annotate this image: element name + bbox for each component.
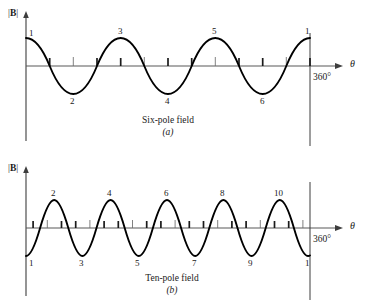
panel-b-pole-label-3: 3 [79,258,84,268]
panel-b-pole-label-6: 6 [164,188,169,198]
panel-b-x-axis-arrow [335,225,343,231]
panel-b-sublabel: (b) [112,285,232,295]
panel-a-x-end-label: 360° [313,72,331,82]
panel-a-y-axis-bar-right: | [16,8,18,18]
panel-b-pole-label-9: 9 [248,258,253,268]
panel-a-pole-label-1a: 1 [29,28,34,38]
panel-b-pole-label-7: 7 [192,258,197,268]
panel-a-pole-label-4: 4 [165,96,170,106]
panel-a-pole-label-5: 5 [212,26,217,36]
panel-b-x-end-label: 360° [313,234,331,244]
panel-a-ticks [50,57,310,66]
panel-b-y-axis-arrow [23,166,29,173]
panel-a-y-axis-arrow [23,11,29,18]
panel-b-pole-label-5: 5 [135,258,140,268]
panel-b-pole-label-4: 4 [107,188,112,198]
panel-a-pole-label-6: 6 [260,96,265,106]
panel-b-pole-label-1b: 1 [305,258,310,268]
panel-b-y-axis-bar-right: | [16,163,18,173]
panel-b-ticks [33,220,303,228]
panel-b-pole-label-8: 8 [220,188,225,198]
panel-b-pole-label-2: 2 [51,188,56,198]
panel-b-pole-label-1a: 1 [29,258,34,268]
panel-a-x-axis-arrow [335,63,343,69]
figure-svg [0,0,376,308]
panel-a-caption: Six-pole field [108,115,228,125]
panel-a-pole-label-1b: 1 [305,26,310,36]
panel-b-y-axis-label: |B| [8,163,18,173]
panel-b-caption: Ten-pole field [112,273,232,283]
panel-a-sublabel: (a) [108,127,228,137]
panel-a-pole-label-2: 2 [70,96,75,106]
panel-b-pole-label-10: 10 [274,188,283,198]
panel-b-x-axis-label: θ [350,220,355,231]
panel-a-pole-label-3: 3 [118,26,123,36]
panel-a-x-axis-label: θ [350,58,355,69]
figure-container: |B| 1 3 5 1 2 4 6 θ 360° Six-pole field … [0,0,376,308]
panel-a-y-axis-label: |B| [8,8,18,18]
